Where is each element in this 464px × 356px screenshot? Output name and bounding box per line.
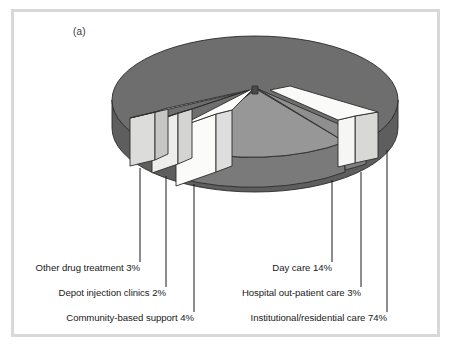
slice-hospital-front	[338, 116, 355, 167]
slice-depot-side	[178, 109, 192, 164]
label-depot-injection-clinics: Depot injection clinics 2%	[36, 287, 166, 298]
apex-post	[252, 86, 258, 94]
slice-community-side	[216, 110, 232, 172]
label-day-care: Day care 14%	[242, 262, 332, 273]
label-community-based-support: Community-based support 4%	[40, 312, 194, 323]
slice-hospital-side-right	[355, 112, 378, 163]
pie-apex	[252, 86, 258, 94]
figure-root: (a)	[0, 0, 464, 356]
label-other-drug-treatment: Other drug treatment 3%	[20, 262, 140, 273]
exploded-3d-pie-chart	[0, 0, 464, 356]
slice-other-side	[155, 108, 168, 160]
slice-other-front	[130, 112, 155, 166]
label-hospital-out-patient-care: Hospital out-patient care 3%	[216, 287, 361, 298]
label-institutional-residential-care: Institutional/residential care 74%	[222, 312, 387, 323]
